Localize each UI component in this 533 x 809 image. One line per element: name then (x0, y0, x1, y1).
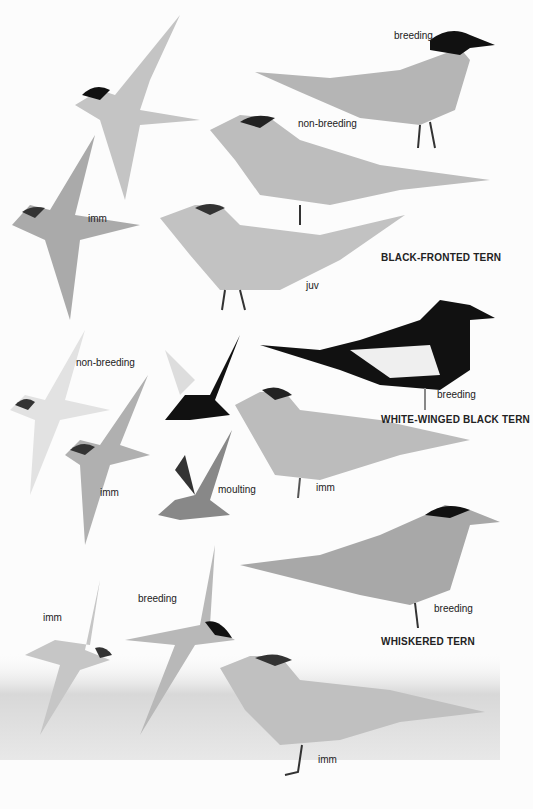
label-bft-non-breeding: non-breeding (298, 118, 357, 129)
bird-bft-juv (160, 204, 405, 310)
label-wt-imm-flying: imm (43, 612, 62, 623)
species-title-white-winged-black-tern: WHITE-WINGED BLACK TERN (381, 414, 530, 425)
bird-bft-non-breeding (210, 115, 490, 225)
label-bft-juv: juv (306, 280, 319, 291)
label-wwbt-moulting: moulting (218, 484, 256, 495)
label-wt-breeding-flying: breeding (138, 593, 177, 604)
species-title-black-fronted-tern: BLACK-FRONTED TERN (381, 252, 501, 263)
label-wt-imm-perched: imm (318, 754, 337, 765)
bird-bft-flying-adult (75, 15, 200, 200)
label-wwbt-breeding: breeding (437, 389, 476, 400)
illustration-plate: breeding non-breeding imm juv BLACK-FRON… (0, 0, 533, 809)
label-bft-breeding: breeding (394, 30, 433, 41)
label-wt-breeding-perched: breeding (434, 603, 473, 614)
label-wwbt-non-breeding: non-breeding (76, 357, 135, 368)
bird-wwbt-imm-flying (65, 375, 150, 545)
label-wwbt-imm-flying: imm (100, 487, 119, 498)
tern-illustrations (0, 0, 533, 809)
bird-wwbt-breeding-flying (165, 335, 240, 420)
label-bft-imm: imm (88, 213, 107, 224)
bird-bft-breeding (255, 31, 495, 148)
bird-wwbt-moulting-flying (158, 430, 232, 520)
bird-wwbt-imm-perched (235, 387, 470, 498)
species-title-whiskered-tern: WHISKERED TERN (381, 636, 475, 647)
label-wwbt-imm-perched: imm (316, 482, 335, 493)
